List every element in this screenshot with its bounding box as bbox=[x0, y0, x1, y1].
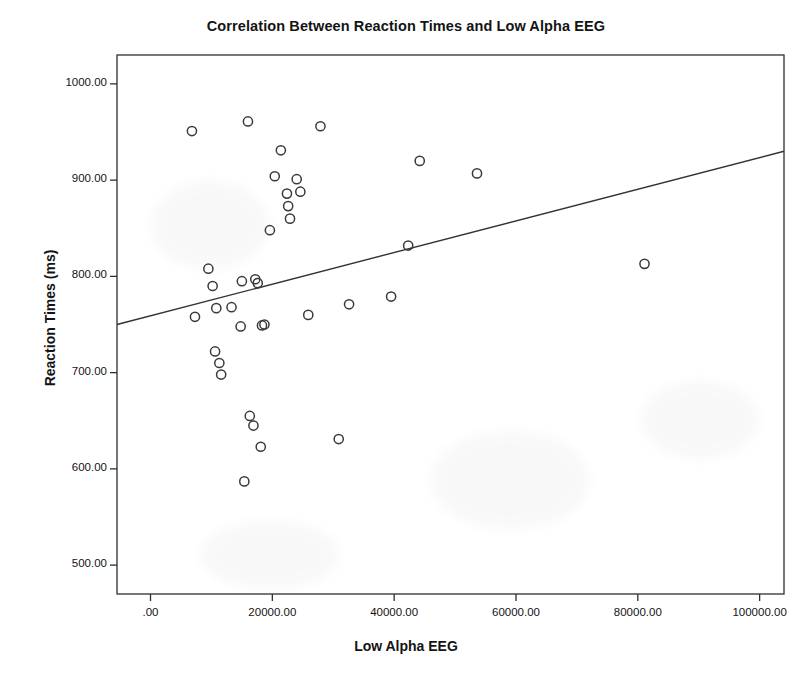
scatter-point bbox=[285, 214, 294, 223]
scatter-point bbox=[240, 477, 249, 486]
scatter-point bbox=[316, 122, 325, 131]
scatter-point bbox=[236, 322, 245, 331]
x-axis-tick-label: 60000.00 bbox=[466, 606, 566, 618]
x-axis-tick-label: 20000.00 bbox=[222, 606, 322, 618]
trendline bbox=[117, 151, 784, 324]
scatter-point bbox=[270, 172, 279, 181]
x-axis-tick-label: .00 bbox=[101, 606, 201, 618]
scatter-point bbox=[334, 434, 343, 443]
y-axis-title: Reaction Times (ms) bbox=[42, 188, 58, 448]
y-axis-tick-label: 1000.00 bbox=[39, 76, 107, 88]
y-axis-tick-label: 800.00 bbox=[39, 268, 107, 280]
scatter-point bbox=[472, 169, 481, 178]
scatter-point bbox=[276, 146, 285, 155]
plot-frame bbox=[117, 55, 784, 594]
figure-scatter-plot: Correlation Between Reaction Times and L… bbox=[0, 0, 812, 675]
scatter-point bbox=[304, 310, 313, 319]
scatter-point bbox=[208, 281, 217, 290]
x-axis-tick-label: 100000.00 bbox=[710, 606, 810, 618]
x-axis-tick-label: 80000.00 bbox=[588, 606, 688, 618]
y-axis-tick-label: 600.00 bbox=[39, 461, 107, 473]
scatter-point bbox=[415, 156, 424, 165]
x-axis-ticks bbox=[151, 594, 760, 601]
trendline-path bbox=[117, 151, 784, 324]
scatter-point bbox=[243, 117, 252, 126]
x-axis-tick-label: 40000.00 bbox=[344, 606, 444, 618]
scatter-point bbox=[282, 189, 291, 198]
scatter-point bbox=[256, 442, 265, 451]
scatter-point bbox=[387, 292, 396, 301]
scatter-point bbox=[212, 304, 221, 313]
scatter-point bbox=[284, 202, 293, 211]
scatter-point bbox=[215, 358, 224, 367]
scatter-point bbox=[344, 300, 353, 309]
y-axis-tick-label: 900.00 bbox=[39, 172, 107, 184]
scatter-point bbox=[245, 411, 254, 420]
scatter-point bbox=[237, 277, 246, 286]
scatter-point bbox=[249, 421, 258, 430]
y-axis-tick-label: 700.00 bbox=[39, 365, 107, 377]
scatter-point bbox=[204, 264, 213, 273]
plot-frame-rect bbox=[117, 55, 784, 594]
y-axis-ticks bbox=[110, 84, 117, 565]
scatter-point bbox=[296, 187, 305, 196]
y-axis-tick-label: 500.00 bbox=[39, 557, 107, 569]
scatter-point bbox=[640, 259, 649, 268]
scatter-point bbox=[227, 303, 236, 312]
scatter-point bbox=[217, 370, 226, 379]
data-points bbox=[187, 117, 649, 486]
scatter-point bbox=[190, 312, 199, 321]
scatter-point bbox=[292, 175, 301, 184]
scatter-point bbox=[265, 226, 274, 235]
x-axis-title: Low Alpha EEG bbox=[0, 638, 812, 654]
scatter-point bbox=[187, 126, 196, 135]
scatter-point bbox=[210, 347, 219, 356]
plot-area bbox=[0, 0, 812, 675]
